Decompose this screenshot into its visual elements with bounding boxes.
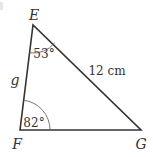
vertex-label-e: E [28,7,39,23]
triangle-diagram: E F G g 12 cm 53° 82° [0,0,153,157]
angle-label-f: 82° [23,116,44,130]
side-label-eg: 12 cm [88,64,126,78]
side-label-ef: g [11,72,20,88]
angle-label-e: 53° [33,47,54,61]
scan-artifact [0,2,3,10]
vertex-label-f: F [11,136,23,152]
vertex-label-g: G [135,136,146,152]
